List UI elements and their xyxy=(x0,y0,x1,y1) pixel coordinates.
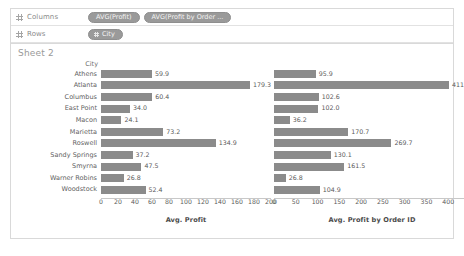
rows-label-text: Rows xyxy=(27,30,46,38)
bar-value-label: 104.9 xyxy=(323,187,341,193)
axis-tick: 140 xyxy=(214,199,226,205)
row-header-label: City xyxy=(15,60,101,68)
bar[interactable] xyxy=(101,128,163,136)
columns-pill-list: AVG(Profit) AVG(Profit by Order ... xyxy=(88,12,231,23)
bar-value-label: 179.3 xyxy=(253,82,271,88)
axis-tick: 100 xyxy=(312,199,324,205)
chart-row: East Point34.0102.0 xyxy=(15,103,449,115)
bar-panel-avg-profit-by-order-id: 161.5 xyxy=(274,161,464,173)
chart-row: Columbus60.4102.6 xyxy=(15,91,449,103)
bar[interactable] xyxy=(274,116,290,124)
tableau-worksheet: Columns AVG(Profit) AVG(Profit by Order … xyxy=(0,0,464,256)
rows-shelf[interactable]: Rows City xyxy=(11,26,453,43)
category-label: Macon xyxy=(15,117,101,124)
bar[interactable] xyxy=(101,105,130,113)
category-label: Smyrna xyxy=(15,163,101,170)
columns-shelf[interactable]: Columns AVG(Profit) AVG(Profit by Order … xyxy=(11,9,453,26)
bar-value-label: 411.4 xyxy=(452,82,464,88)
bar[interactable] xyxy=(101,163,141,171)
pill-avg-profit-by-order[interactable]: AVG(Profit by Order ... xyxy=(144,12,232,23)
pill-avg-profit[interactable]: AVG(Profit) xyxy=(88,12,140,23)
axis-tick: 60 xyxy=(148,199,156,205)
bar[interactable] xyxy=(101,116,121,124)
bar-panel-avg-profit: 60.4 xyxy=(101,91,271,103)
columns-shelf-label: Columns xyxy=(11,13,88,21)
axis-tick: 0 xyxy=(272,199,276,205)
pill-avg-profit-text: AVG(Profit) xyxy=(96,12,132,23)
bar-chart-grid: Athens59.995.9Atlanta179.3411.4Columbus6… xyxy=(15,68,449,196)
bar[interactable] xyxy=(101,81,250,89)
bar[interactable] xyxy=(274,81,449,89)
page-title: Sheet 2 xyxy=(15,47,449,60)
bar[interactable] xyxy=(101,186,146,194)
bar-value-label: 102.0 xyxy=(321,105,339,111)
axis-spacer xyxy=(15,198,101,207)
axis-tick: 100 xyxy=(180,199,192,205)
axis-tick: 400 xyxy=(442,199,454,205)
bar-panel-avg-profit: 47.5 xyxy=(101,161,271,173)
chart-row: Warner Robins26.826.8 xyxy=(15,172,449,184)
bar[interactable] xyxy=(274,186,320,194)
bar-panel-avg-profit-by-order-id: 95.9 xyxy=(274,68,464,80)
bar-panel-avg-profit: 179.3 xyxy=(101,80,271,92)
bar[interactable] xyxy=(274,70,316,78)
bar-value-label: 73.2 xyxy=(166,129,180,135)
chart-row: Marietta73.2170.7 xyxy=(15,126,449,138)
axis-row: 020406080100120140160180200 050100150200… xyxy=(15,198,449,207)
bar[interactable] xyxy=(274,151,331,159)
category-label: Woodstock xyxy=(15,186,101,193)
axis-tick: 0 xyxy=(99,199,103,205)
pill-city[interactable]: City xyxy=(88,29,123,40)
bar-panel-avg-profit-by-order-id: 411.4 xyxy=(274,80,464,92)
bar-value-label: 102.6 xyxy=(322,94,340,100)
bar-panel-avg-profit: 37.2 xyxy=(101,149,271,161)
bar-value-label: 34.0 xyxy=(133,105,147,111)
bar[interactable] xyxy=(101,70,152,78)
bar-panel-avg-profit-by-order-id: 269.7 xyxy=(274,138,464,150)
bar-panel-avg-profit-by-order-id: 26.8 xyxy=(274,172,464,184)
bar[interactable] xyxy=(101,139,216,147)
bar[interactable] xyxy=(101,174,124,182)
bar-panel-avg-profit: 52.4 xyxy=(101,184,271,196)
category-label: Columbus xyxy=(15,94,101,101)
x-axis-title-left: Avg. Profit xyxy=(101,216,271,224)
grid-icon xyxy=(94,32,99,37)
bar-panel-avg-profit: 24.1 xyxy=(101,114,271,126)
axis-tick: 250 xyxy=(377,199,389,205)
bar-panel-avg-profit: 59.9 xyxy=(101,68,271,80)
chart-row: Smyrna47.5161.5 xyxy=(15,161,449,173)
bar[interactable] xyxy=(274,93,319,101)
grid-icon xyxy=(16,14,23,21)
bar-value-label: 47.5 xyxy=(144,163,158,169)
bar-value-label: 134.9 xyxy=(219,140,237,146)
grid-icon xyxy=(16,31,23,38)
chart-row: Roswell134.9269.7 xyxy=(15,138,449,150)
category-label: Marietta xyxy=(15,129,101,136)
pill-avg-profit-by-order-text: AVG(Profit by Order ... xyxy=(152,12,224,23)
chart-row: Macon24.136.2 xyxy=(15,114,449,126)
bar[interactable] xyxy=(101,151,133,159)
axis-rule xyxy=(274,198,464,199)
axis-tick: 160 xyxy=(231,199,243,205)
axis-tick: 150 xyxy=(333,199,345,205)
axis-tick: 200 xyxy=(355,199,367,205)
bar-value-label: 170.7 xyxy=(351,129,369,135)
bar-value-label: 26.8 xyxy=(127,175,141,181)
bar-value-label: 60.4 xyxy=(155,94,169,100)
pill-city-text: City xyxy=(102,29,115,40)
bar-value-label: 37.2 xyxy=(136,152,150,158)
chart-row: Sandy Springs37.2130.1 xyxy=(15,149,449,161)
bar-value-label: 59.9 xyxy=(155,71,169,77)
bar[interactable] xyxy=(274,163,344,171)
bar[interactable] xyxy=(274,128,348,136)
bar[interactable] xyxy=(274,174,286,182)
bar[interactable] xyxy=(274,105,318,113)
bar-value-label: 161.5 xyxy=(347,163,365,169)
bar-panel-avg-profit-by-order-id: 130.1 xyxy=(274,149,464,161)
bar[interactable] xyxy=(274,139,391,147)
chart-row: Atlanta179.3411.4 xyxy=(15,80,449,92)
category-label: Sandy Springs xyxy=(15,152,101,159)
bar-value-label: 52.4 xyxy=(149,187,163,193)
category-label: Athens xyxy=(15,71,101,78)
bar[interactable] xyxy=(101,93,152,101)
